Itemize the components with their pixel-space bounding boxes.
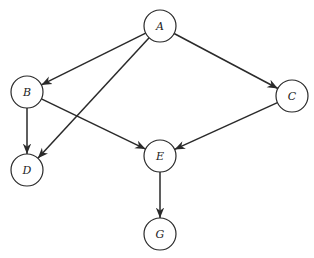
node-e: E [144, 140, 176, 172]
node-b: B [11, 76, 43, 108]
node-label: B [22, 86, 31, 99]
edge-c-e [175, 103, 278, 150]
edge-a-c [174, 33, 278, 88]
node-label: D [22, 164, 32, 177]
node-label: C [288, 90, 297, 103]
edges [27, 33, 278, 218]
node-c: C [276, 80, 308, 112]
directed-graph: ABCDEG [0, 0, 314, 258]
edge-b-e [41, 99, 145, 149]
node-d: D [11, 154, 43, 186]
node-g: G [144, 218, 176, 250]
node-label: G [156, 228, 165, 241]
edge-a-d [38, 38, 149, 158]
node-a: A [144, 10, 176, 42]
node-label: E [155, 150, 164, 163]
node-label: A [155, 20, 164, 33]
